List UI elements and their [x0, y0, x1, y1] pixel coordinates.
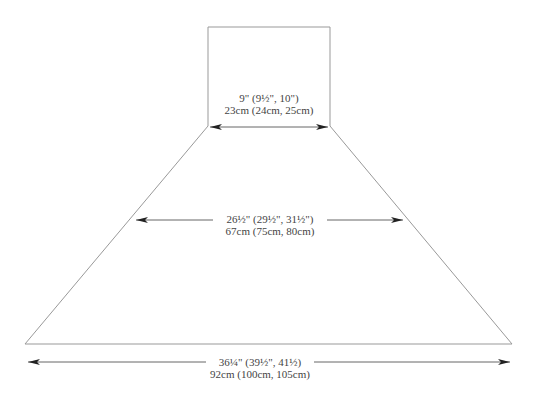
- neck-imperial: 9" (9½", 10"): [211, 92, 327, 104]
- middle-measurement-label: 26½" (29½", 31½") 67cm (75cm, 80cm): [215, 213, 325, 237]
- neck-measurement-label: 9" (9½", 10") 23cm (24cm, 25cm): [211, 92, 327, 116]
- schematic-drawing: [0, 0, 538, 401]
- middle-metric: 67cm (75cm, 80cm): [215, 225, 325, 237]
- neck-metric: 23cm (24cm, 25cm): [211, 104, 327, 116]
- middle-imperial: 26½" (29½", 31½"): [215, 213, 325, 225]
- bottom-metric: 92cm (100cm, 105cm): [206, 368, 314, 380]
- bottom-imperial: 36¼" (39½", 41½): [206, 356, 314, 368]
- bottom-measurement-label: 36¼" (39½", 41½) 92cm (100cm, 105cm): [206, 356, 314, 380]
